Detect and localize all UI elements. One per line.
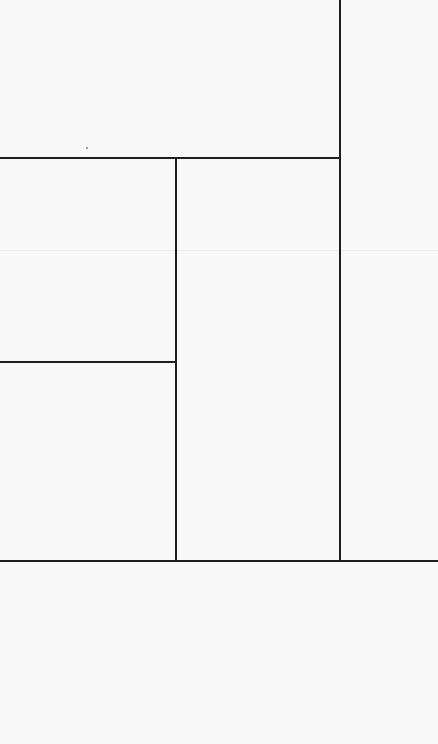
vertical-line-right [339, 0, 341, 561]
horizontal-line-left [0, 361, 176, 363]
vertical-line-middle [175, 157, 177, 561]
drawing-canvas [0, 0, 438, 744]
horizontal-line-bottom [0, 560, 438, 562]
stray-dot [86, 147, 88, 149]
faint-horizontal-line [0, 250, 438, 251]
horizontal-line-top [0, 157, 341, 159]
